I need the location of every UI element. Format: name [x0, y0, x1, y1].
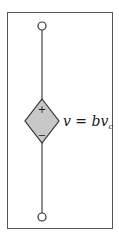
polarity-plus: +: [38, 104, 46, 115]
polarity-minus: −: [38, 130, 46, 141]
bottom-terminal-icon: [38, 213, 46, 221]
source-equation-label: v = bvc: [63, 113, 113, 131]
label-equals: =: [71, 113, 92, 129]
label-var: v: [101, 113, 109, 129]
label-subscript: c: [108, 122, 113, 131]
label-coefficient: b: [92, 113, 101, 129]
label-lhs: v: [63, 113, 71, 129]
dependent-source-diagram: + − v = bvc: [0, 0, 119, 234]
top-terminal-icon: [38, 22, 46, 30]
